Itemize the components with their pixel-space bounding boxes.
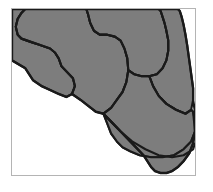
map-figure: Florida [0, 0, 213, 192]
map-border [11, 8, 196, 176]
florida-map-svg [12, 9, 195, 175]
